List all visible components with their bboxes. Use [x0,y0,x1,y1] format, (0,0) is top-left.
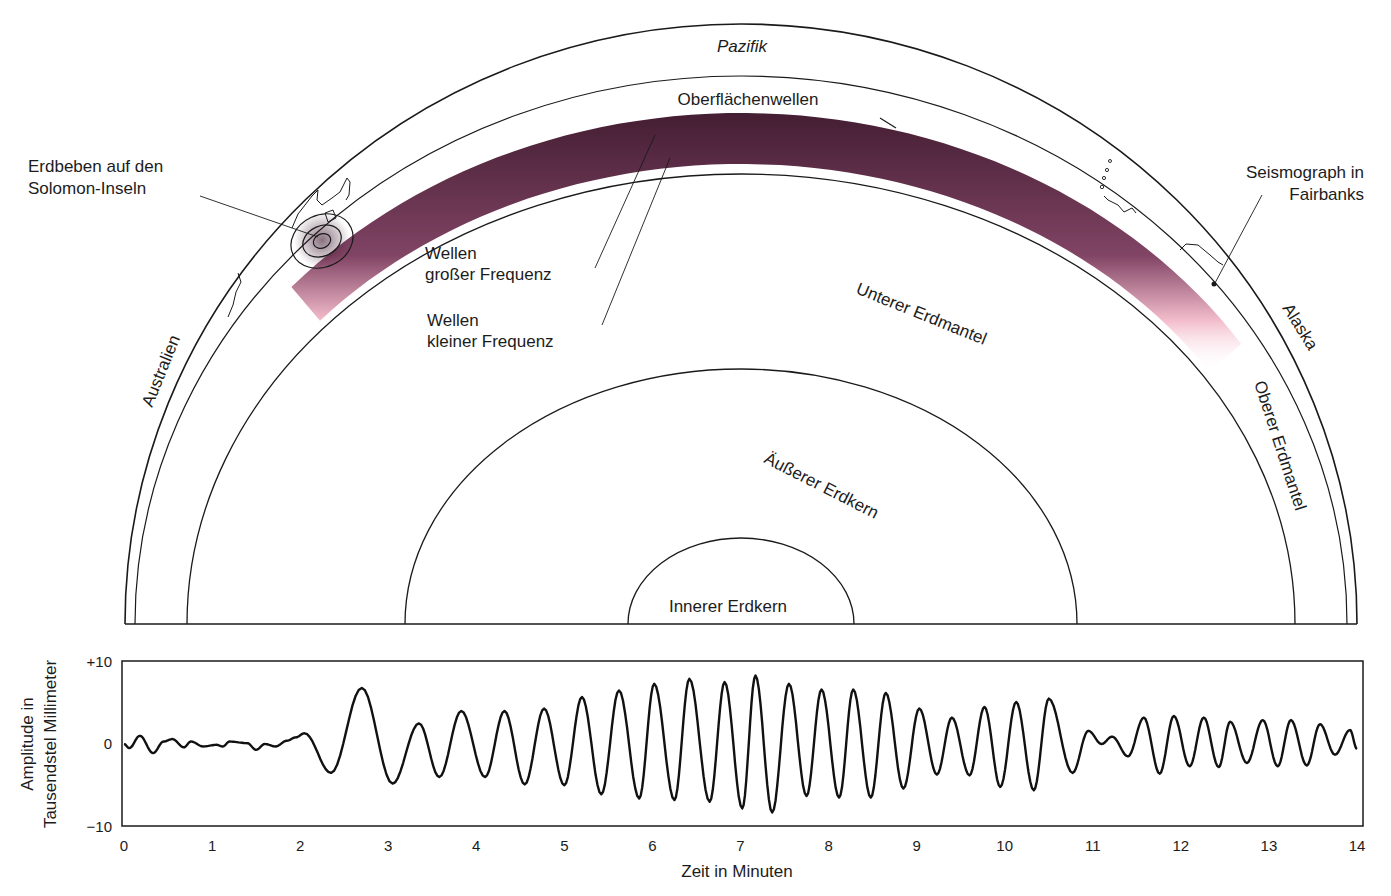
label-high-freq-line1: Wellen [425,244,477,263]
seismogram-chart: 01234567891011121314 +100−10 Zeit in Min… [18,653,1365,882]
x-tick-label: 12 [1173,837,1190,854]
label-pacific: Pazifik [717,37,769,56]
x-tick-label: 4 [472,837,480,854]
x-tick-labels: 01234567891011121314 [120,837,1366,854]
y-tick-label: 0 [104,735,112,752]
label-inner-core: Innerer Erdkern [669,597,787,616]
seismogram-trace [124,676,1357,813]
label-low-freq-line2: kleiner Frequenz [427,332,554,351]
label-quake-line2: Solomon-Inseln [28,179,146,198]
x-tick-label: 14 [1349,837,1366,854]
x-tick-label: 5 [560,837,568,854]
outer-core-boundary [405,369,1077,624]
label-seismograph-line2: Fairbanks [1289,185,1364,204]
wave-direction-arrow [880,118,896,128]
y-axis-label-line1: Amplitude in [18,697,37,791]
label-outer-core: Äußerer Erdkern [761,449,882,523]
x-tick-label: 1 [208,837,216,854]
seismic-wave-figure: Pazifik Oberflächenwellen Erdbeben auf d… [0,0,1391,896]
y-tick-label: −10 [87,818,112,835]
label-high-freq-line2: großer Frequenz [425,265,552,284]
y-tick-label: +10 [87,653,112,670]
x-tick-label: 11 [1085,837,1101,854]
x-tick-label: 9 [912,837,920,854]
earth-cross-section: Pazifik Oberflächenwellen Erdbeben auf d… [28,24,1364,624]
label-upper-mantle: Oberer Erdmantel [1250,378,1310,512]
label-seismograph-line1: Seismograph in [1246,163,1364,182]
x-tick-label: 8 [824,837,832,854]
low-freq-leader-line [602,158,670,325]
coastline-alaska [1180,244,1223,265]
label-quake-line1: Erdbeben auf den [28,157,163,176]
y-tick-labels: +100−10 [87,653,112,835]
seismograph-station-icon [1212,282,1217,287]
quake-leader-line [200,196,318,237]
x-tick-label: 13 [1261,837,1278,854]
y-axis-label-line2: Tausendstel Millimeter [41,660,60,829]
x-axis-label: Zeit in Minuten [681,862,793,881]
plot-frame [122,661,1363,826]
coastline-australia [228,273,241,317]
x-tick-label: 3 [384,837,392,854]
x-tick-label: 10 [996,837,1013,854]
label-low-freq-line1: Wellen [427,311,479,330]
label-lower-mantle: Unterer Erdmantel [854,279,990,349]
label-surface-waves: Oberflächenwellen [678,90,819,109]
x-tick-label: 7 [736,837,744,854]
label-alaska: Alaska [1279,300,1322,354]
label-australia: Australien [138,332,184,409]
x-tick-label: 2 [296,837,304,854]
x-tick-label: 0 [120,837,128,854]
x-tick-label: 6 [648,837,656,854]
